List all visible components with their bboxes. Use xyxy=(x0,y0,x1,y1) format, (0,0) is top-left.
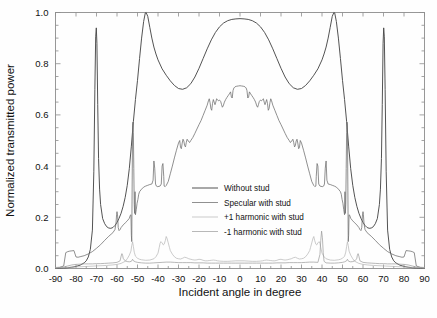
x-tick-label: -30 xyxy=(172,273,186,284)
x-tick-label: 30 xyxy=(296,273,307,284)
series-line xyxy=(56,86,425,269)
chart-figure: -90-80-70-60-50-40-30-20-100102030405060… xyxy=(0,0,437,318)
x-tick-label: 90 xyxy=(419,273,430,284)
plot-canvas: -90-80-70-60-50-40-30-20-100102030405060… xyxy=(0,0,437,318)
legend-label: +1 harmonic with stud xyxy=(224,213,304,222)
series-line xyxy=(56,231,425,267)
y-tick-label: 0.2 xyxy=(35,212,48,223)
x-tick-label: 50 xyxy=(337,273,348,284)
x-tick-label: 10 xyxy=(255,273,266,284)
x-tick-label: 80 xyxy=(399,273,410,284)
x-tick-label: -60 xyxy=(110,273,124,284)
x-tick-label: 70 xyxy=(378,273,389,284)
x-tick-label: -90 xyxy=(49,273,63,284)
y-tick-label: 0.8 xyxy=(35,58,48,69)
x-tick-label: -20 xyxy=(192,273,206,284)
x-tick-label: 20 xyxy=(276,273,287,284)
x-tick-label: -80 xyxy=(69,273,83,284)
x-tick-label: -10 xyxy=(213,273,227,284)
x-tick-label: 0 xyxy=(237,273,242,284)
y-axis-title: Normalized transmitted power xyxy=(4,64,16,217)
legend-label: Without stud xyxy=(224,184,270,193)
legend-label: Specular with stud xyxy=(224,199,291,208)
x-tick-label: -70 xyxy=(90,273,104,284)
legend-label: -1 harmonic with stud xyxy=(224,228,302,237)
x-tick-label: -40 xyxy=(151,273,165,284)
y-tick-label: 0.0 xyxy=(35,263,48,274)
x-tick-label: 40 xyxy=(317,273,328,284)
x-tick-label: 60 xyxy=(358,273,369,284)
y-tick-label: 0.4 xyxy=(35,161,48,172)
y-tick-label: 0.6 xyxy=(35,109,48,120)
x-tick-label: -50 xyxy=(131,273,145,284)
x-axis-title: Incident angle in degree xyxy=(179,286,302,298)
y-tick-label: 1.0 xyxy=(35,7,48,18)
